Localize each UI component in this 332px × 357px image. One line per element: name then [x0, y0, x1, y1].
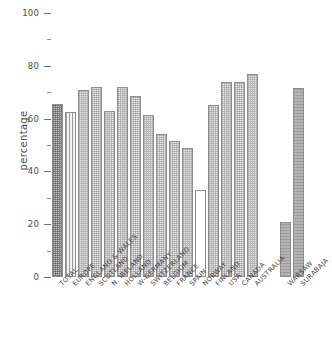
plot-area [0, 0, 332, 357]
bar-england-wales [78, 90, 89, 277]
bar-usa [221, 82, 232, 277]
bar-canada [234, 82, 245, 277]
bar-surabaja [293, 88, 304, 277]
bar-europe [65, 112, 76, 277]
bar-scotland [91, 87, 102, 277]
bar-chart: percentage 020406080100 TOTALEUROPEENGLA… [0, 0, 332, 357]
bar-warsaw [280, 222, 291, 277]
bar-switzerland [143, 115, 154, 277]
bar-w-germany [130, 96, 141, 277]
bar-total [52, 104, 63, 277]
bar-australia [247, 74, 258, 277]
bar-finland [208, 105, 219, 277]
